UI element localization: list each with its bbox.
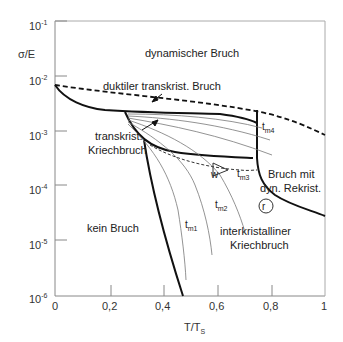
no-fracture-boundary xyxy=(144,140,183,296)
region-dynamic: dynamischer Bruch xyxy=(145,47,239,59)
svg-text:0,8: 0,8 xyxy=(263,300,278,312)
svg-text:10-5: 10-5 xyxy=(29,238,48,251)
r-marker: r xyxy=(259,199,273,213)
y-axis-ticks xyxy=(55,21,67,240)
region-no-fracture: kein Bruch xyxy=(87,222,139,234)
svg-text:10-4: 10-4 xyxy=(29,183,48,196)
svg-text:0,4: 0,4 xyxy=(155,300,170,312)
region-inter-creep-2: Kriechbruch xyxy=(230,239,289,251)
svg-text:1: 1 xyxy=(321,300,327,312)
ductile-boundary-dashed xyxy=(55,85,325,135)
region-recryst-2: dyn. Rekrist. xyxy=(260,182,321,194)
region-ductile: duktiler transkrist. Bruch xyxy=(103,80,221,92)
svg-text:0: 0 xyxy=(52,300,58,312)
y-axis-labels: 10-1 10-2 10-3 10-4 10-5 10-6 σ/E xyxy=(18,19,48,305)
svg-text:0,6: 0,6 xyxy=(209,300,224,312)
region-inter-creep-1: interkristalliner xyxy=(220,225,291,237)
fracture-mechanism-map: 10-1 10-2 10-3 10-4 10-5 10-6 σ/E 0 0,2 … xyxy=(0,0,343,342)
region-trans-creep-1: transkrist. xyxy=(95,130,143,142)
svg-text:10-2: 10-2 xyxy=(29,74,48,87)
x-axis-labels: 0 0,2 0,4 0,6 0,8 1 T/TS xyxy=(52,300,327,335)
region-trans-creep-2: Kriechbruch xyxy=(88,144,147,156)
plot-frame xyxy=(55,21,325,296)
svg-text:0,2: 0,2 xyxy=(102,300,117,312)
svg-text:w: w xyxy=(210,169,219,180)
region-recryst-1: Bruch mit xyxy=(268,168,314,180)
w-marker: w xyxy=(210,163,228,180)
svg-text:r: r xyxy=(262,201,266,212)
svg-text:10-6: 10-6 xyxy=(29,292,48,305)
tm2-label: tm2 xyxy=(215,199,228,212)
tm1-label: tm1 xyxy=(185,219,198,232)
tm4-label: tm4 xyxy=(262,121,275,134)
y-axis-title: σ/E xyxy=(18,48,35,60)
x-axis-title: T/TS xyxy=(184,321,206,335)
x-axis-ticks xyxy=(111,285,272,296)
svg-text:10-3: 10-3 xyxy=(29,129,48,142)
svg-text:10-1: 10-1 xyxy=(29,19,48,32)
time-contour-lines xyxy=(128,114,272,280)
recryst-upper-boundary xyxy=(257,110,325,216)
